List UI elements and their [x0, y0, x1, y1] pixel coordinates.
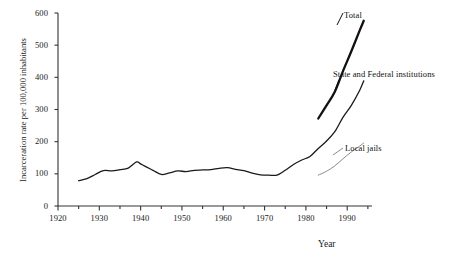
x-tick-label: 1920 [38, 213, 78, 223]
x-axis-ticks [58, 206, 368, 211]
leader-total [337, 13, 343, 25]
x-tick-label: 1970 [245, 213, 285, 223]
x-tick-label: 1960 [203, 213, 243, 223]
x-tick-label: 1990 [327, 213, 367, 223]
leader-local-jails [333, 148, 343, 155]
series-label-state-and-federal: State and Federal institutions [333, 69, 435, 79]
series-line-state-and-federal [79, 81, 364, 181]
x-tick-label: 1940 [121, 213, 161, 223]
x-tick-label: 1980 [286, 213, 326, 223]
x-tick-label: 1950 [162, 213, 202, 223]
y-tick-label: 600 [22, 8, 48, 18]
chart-figure: 0100200300400500600 19201930194019501960… [0, 0, 451, 264]
series-label-local-jails: Local jails [345, 143, 382, 153]
data-series-group [79, 21, 364, 181]
y-axis-title: Incarceration rate per 100,000 inhabitan… [18, 25, 28, 195]
series-label-total: Total [344, 10, 362, 20]
x-axis-title: Year [318, 239, 336, 249]
chart-plot-area [0, 0, 451, 264]
x-tick-label: 1930 [79, 213, 119, 223]
y-tick-label: 0 [22, 201, 48, 211]
